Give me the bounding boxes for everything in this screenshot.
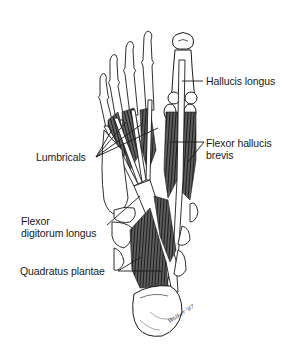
- calcaneus: [133, 286, 182, 337]
- label-flexor-hallucis-brevis: Flexor hallucis brevis: [206, 137, 272, 161]
- label-flexor-digitorum-longus: Flexor digitorum longus: [21, 215, 96, 239]
- foot-anatomy-figure: Hallucis longus Flexor hallucis brevis L…: [0, 0, 302, 346]
- label-lumbricals: Lumbricals: [36, 151, 86, 163]
- foot-illustration: [0, 0, 302, 346]
- label-quadratus-plantae: Quadratus plantae: [20, 265, 105, 277]
- label-hallucis-longus: Hallucis longus: [206, 75, 275, 87]
